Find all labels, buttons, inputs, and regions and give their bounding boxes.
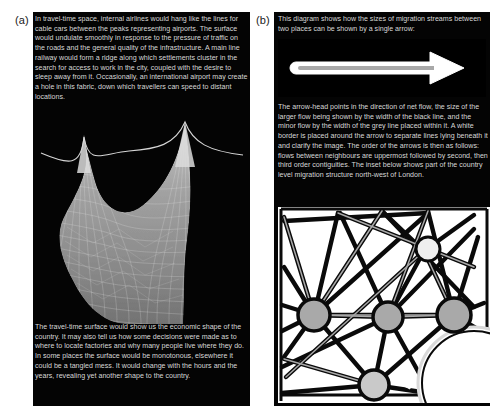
migration-network-inset [278,207,490,403]
travel-time-surface-mesh [33,109,250,324]
arrow-example-box [278,39,486,97]
panel-a-label: (a) [15,14,29,26]
migration-flow-arrow [278,39,486,97]
panel-b-label: (b) [256,14,270,26]
panel-b-caption-middle: The arrow-head points in the direction o… [278,103,490,181]
migration-network-graph [278,207,490,403]
panel-b-caption-top: This diagram shows how the sizes of migr… [278,15,488,34]
panel-a-caption-bottom: The travel-time surface would show us th… [35,323,249,381]
panel-a: In travel-time space, internal airlines … [33,12,250,406]
panel-b: This diagram shows how the sizes of migr… [274,12,490,406]
figure-root: (a) In travel-time space, internal airli… [0,0,503,420]
panel-a-caption-top: In travel-time space, internal airlines … [35,15,249,102]
